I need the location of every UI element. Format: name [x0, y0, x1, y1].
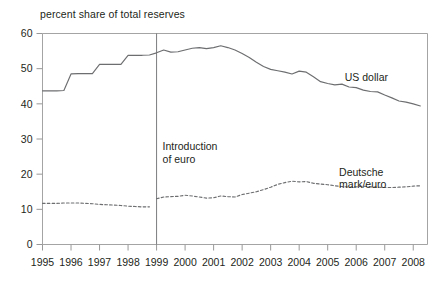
x-axis-tick-label: 2003: [259, 256, 283, 268]
x-axis-tick-label: 2005: [316, 256, 340, 268]
x-axis-tick-label: 1999: [145, 256, 169, 268]
series-label-dm-euro-line2: mark/euro: [339, 178, 386, 190]
plot-frame: [43, 34, 428, 245]
y-axis-tick-label: 50: [21, 62, 33, 74]
x-axis-tick-label: 2007: [373, 256, 397, 268]
x-axis-tick-label: 2008: [402, 256, 426, 268]
series-label-us-dollar: US dollar: [345, 71, 389, 83]
chart-plot-svg: 0102030405060 19951996199719981999200020…: [0, 0, 445, 281]
reserve-currency-share-chart: percent share of total reserves 01020304…: [0, 0, 445, 281]
x-axis-tick-label: 1995: [31, 256, 55, 268]
x-axis-tick-label: 2001: [202, 256, 226, 268]
series-label-group: US dollarDeutschemark/euro: [339, 71, 388, 190]
series-label-dm-euro-line1: Deutsche: [339, 166, 384, 178]
y-axis-tick-label: 30: [21, 133, 33, 145]
y-axis-tick-label: 0: [27, 238, 33, 250]
x-axis-tick-label: 1997: [88, 256, 112, 268]
annotation-group: Introductionof euro: [157, 34, 218, 245]
y-axis-tick-label: 20: [21, 168, 33, 180]
y-axis-tick-label: 60: [21, 27, 33, 39]
y-axis-tick-label: 10: [21, 203, 33, 215]
annotation-label-line1: Introduction: [163, 140, 218, 152]
x-axis-tick-label: 1998: [116, 256, 140, 268]
x-axis-tick-label: 2006: [345, 256, 369, 268]
x-axis-tick-group: 1995199619971998199920002001200220032004…: [31, 245, 425, 268]
y-axis-tick-label: 40: [21, 98, 33, 110]
y-axis-tick-group: 0102030405060: [21, 27, 43, 250]
annotation-label-line2: of euro: [163, 153, 196, 165]
x-axis-tick-label: 1996: [59, 256, 83, 268]
series-line-1: [43, 203, 150, 207]
x-axis-tick-label: 2000: [173, 256, 197, 268]
x-axis-tick-label: 2002: [230, 256, 254, 268]
x-axis-tick-label: 2004: [287, 256, 311, 268]
